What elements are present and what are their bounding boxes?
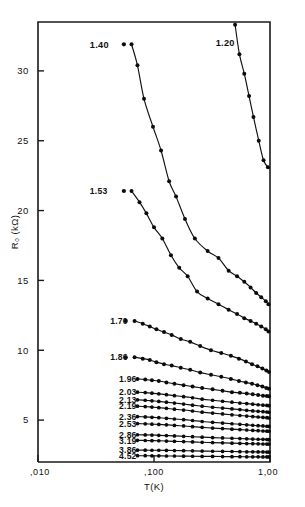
data-point <box>195 290 199 294</box>
x-tick-label: ,010 <box>30 467 50 477</box>
data-point <box>262 158 266 162</box>
curve-line <box>132 44 269 304</box>
data-point <box>186 274 190 278</box>
data-point <box>165 434 169 438</box>
data-point <box>157 439 161 443</box>
data-point <box>200 455 204 459</box>
data-point <box>251 409 255 413</box>
data-point <box>219 351 223 355</box>
data-point <box>251 115 255 119</box>
data-point <box>221 406 225 410</box>
data-point <box>211 426 215 430</box>
data-point <box>267 370 271 374</box>
data-point <box>227 308 231 312</box>
data-point <box>165 400 169 404</box>
data-point <box>143 405 147 409</box>
data-point <box>165 454 169 458</box>
data-point <box>150 433 154 437</box>
data-point <box>238 428 242 432</box>
data-point <box>251 437 255 441</box>
data-point <box>254 291 258 295</box>
data-point <box>251 392 255 396</box>
data-point <box>191 385 195 389</box>
data-point <box>193 237 197 241</box>
data-point <box>188 340 192 344</box>
data-point <box>173 439 177 443</box>
data-point <box>191 409 195 413</box>
curve-label-1-70: 1.70 <box>110 316 128 326</box>
data-point <box>267 416 271 420</box>
data-point <box>227 269 231 273</box>
data-point <box>170 333 174 337</box>
data-point <box>177 266 181 270</box>
data-point <box>238 442 242 446</box>
data-point <box>261 410 265 414</box>
data-point <box>151 125 155 129</box>
data-point <box>237 379 241 383</box>
data-point <box>261 450 265 454</box>
data-point <box>261 429 265 433</box>
plot-frame <box>38 22 270 462</box>
data-point <box>211 420 215 424</box>
data-point <box>254 322 258 326</box>
data-point <box>200 449 204 453</box>
data-point <box>256 424 260 428</box>
data-point <box>267 438 271 442</box>
y-tick-label: 20 <box>17 205 29 216</box>
data-point <box>165 439 169 443</box>
data-point <box>230 422 234 426</box>
data-point <box>173 417 177 421</box>
data-point <box>245 392 249 396</box>
data-point <box>221 412 225 416</box>
data-point <box>233 23 237 27</box>
data-point <box>245 437 249 441</box>
data-point <box>165 423 169 427</box>
data-point <box>260 385 264 389</box>
data-point <box>143 422 147 426</box>
data-point <box>162 362 166 366</box>
data-point <box>256 450 260 454</box>
data-point <box>267 425 271 429</box>
data-point <box>251 415 255 419</box>
data-point <box>157 448 161 452</box>
data-point <box>157 400 161 404</box>
data-point <box>182 424 186 428</box>
data-point <box>257 139 261 143</box>
data-point <box>235 274 239 278</box>
data-point <box>256 403 260 407</box>
data-point <box>260 366 264 370</box>
data-point <box>150 422 154 426</box>
figure-container: 51015202530 ,010,1001,00 1.201.401.531.7… <box>0 0 305 507</box>
data-point <box>261 424 265 428</box>
curve-label-1-96: 1.96 <box>119 374 137 384</box>
data-point <box>179 337 183 341</box>
data-point <box>159 149 163 153</box>
data-point <box>141 322 145 326</box>
data-point <box>230 427 234 431</box>
data-point <box>261 416 265 420</box>
curve-line <box>235 25 268 167</box>
data-point <box>251 402 255 406</box>
data-point <box>211 449 215 453</box>
data-point <box>200 386 204 390</box>
data-point <box>235 312 239 316</box>
data-point <box>251 442 255 446</box>
data-point <box>209 348 213 352</box>
data-point <box>237 52 241 56</box>
data-point <box>173 407 177 411</box>
data-point <box>169 253 173 257</box>
data-point <box>148 325 152 329</box>
data-point <box>143 448 147 452</box>
data-point <box>154 360 158 364</box>
data-point <box>238 455 242 459</box>
data-point <box>230 441 234 445</box>
data-point <box>238 401 242 405</box>
data-point <box>130 42 134 46</box>
data-point <box>143 391 147 395</box>
data-point <box>209 373 213 377</box>
data-point <box>259 325 263 329</box>
data-point <box>221 427 225 431</box>
data-point <box>143 439 147 443</box>
y-axis-title: R₀ (kΩ) <box>9 215 20 249</box>
data-point <box>150 405 154 409</box>
